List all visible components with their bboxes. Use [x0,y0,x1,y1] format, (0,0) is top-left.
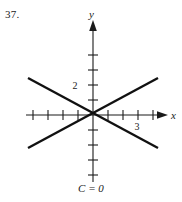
y-tick-label-2: 2 [73,80,78,91]
x-axis-label: x [170,109,176,121]
x-tick-label-3: 3 [135,121,140,132]
x-axis-arrowhead [157,111,168,119]
figure-caption: C = 0 [0,182,182,194]
y-axis-arrowhead [89,20,97,31]
problem-number: 37. [5,9,19,20]
coordinate-plot: y x 2 3 [0,0,182,202]
y-axis-label: y [88,8,94,20]
figure-panel: 37. y x [0,0,182,202]
